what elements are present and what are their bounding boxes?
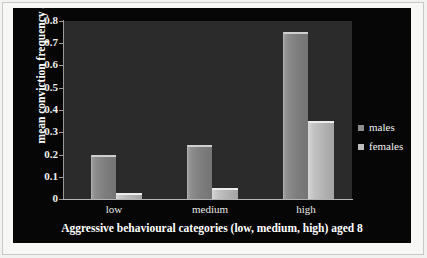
chart-canvas: 0.8 0.7 0.6 0.5 0.4 0.3 0.2 0.1 <box>13 8 411 243</box>
y-tick-mark-4 <box>59 110 63 111</box>
y-tick-mark-1 <box>59 43 63 44</box>
y-tick-6: 0.2 <box>13 149 58 161</box>
bar-females-low <box>116 193 142 199</box>
figure-root: 0.8 0.7 0.6 0.5 0.4 0.3 0.2 0.1 <box>0 0 427 258</box>
y-tick-label-8: 0 <box>18 193 58 204</box>
legend-label-females: females <box>369 141 403 152</box>
legend: males females <box>358 120 403 158</box>
y-tick-mark-2 <box>59 65 63 66</box>
x-tick-label-high: high <box>271 204 341 215</box>
bars-layer <box>64 21 352 199</box>
legend-item-males: males <box>358 120 403 135</box>
legend-label-males: males <box>369 122 395 133</box>
x-axis-line <box>63 199 353 200</box>
bar-males-low <box>91 155 116 199</box>
y-tick-mark-3 <box>59 88 63 89</box>
y-tick-7: 0.1 <box>13 171 58 183</box>
bar-females-high <box>308 121 334 199</box>
bar-females-medium <box>212 188 238 199</box>
y-tick-mark-0 <box>59 21 63 22</box>
bar-males-medium <box>187 145 212 199</box>
x-tick-label-medium: medium <box>175 204 245 215</box>
legend-item-females: females <box>358 139 403 154</box>
legend-swatch-females-icon <box>358 144 364 150</box>
y-tick-mark-5 <box>59 132 63 133</box>
y-tick-mark-8 <box>59 199 63 200</box>
y-axis-title: mean conviction frequency at 30 <box>35 8 47 144</box>
y-tick-mark-7 <box>59 177 63 178</box>
bar-males-high <box>283 32 308 199</box>
x-tick-label-low: low <box>79 204 149 215</box>
y-tick-label-7: 0.1 <box>18 171 58 182</box>
y-tick-mark-6 <box>59 155 63 156</box>
y-tick-8: 0 <box>13 193 58 205</box>
y-tick-label-6: 0.2 <box>18 149 58 160</box>
x-axis-title: Aggressive behavioural categories (low, … <box>13 222 411 234</box>
legend-swatch-males-icon <box>358 125 364 131</box>
